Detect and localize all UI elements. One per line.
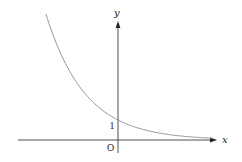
exponential-curve	[46, 14, 213, 138]
x-axis-label: x	[222, 134, 228, 145]
exponential-graph: y x 1 O	[0, 0, 242, 162]
origin-label: O	[107, 142, 114, 153]
y-axis-arrowhead-icon	[116, 21, 121, 28]
y-axis-label: y	[113, 7, 120, 18]
y-tick-label-1: 1	[110, 120, 115, 131]
